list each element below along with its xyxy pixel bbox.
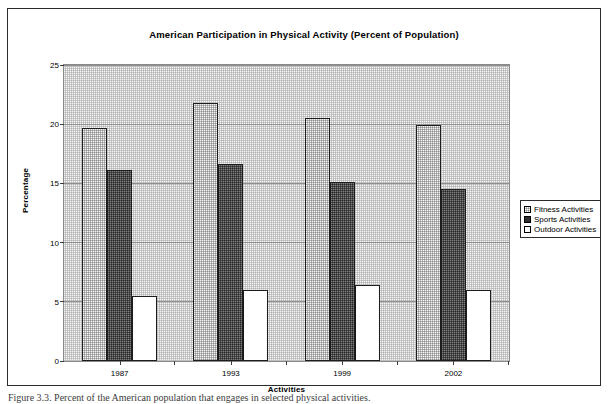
bars-layer: 1987199319992002 (64, 65, 509, 361)
chart-title: American Participation in Physical Activ… (8, 29, 600, 40)
bar-1999-outdoor[interactable] (355, 285, 380, 361)
bar-group-1993: 1993 (175, 65, 286, 361)
bar-2002-outdoor[interactable] (466, 290, 491, 361)
y-tick-label-15: 15 (50, 179, 59, 188)
x-group-divider-1993 (286, 361, 287, 365)
figure-frame: American Participation in Physical Activ… (7, 8, 601, 386)
legend-swatch-fitness-icon (524, 206, 531, 213)
bar-1999-fitness[interactable] (305, 118, 330, 361)
chart-legend: Fitness Activities Sports Activities Out… (520, 200, 601, 238)
x-tick-label-1987: 1987 (111, 369, 129, 378)
bar-1999-sports[interactable] (330, 182, 355, 361)
legend-label-sports: Sports Activities (534, 215, 590, 224)
legend-swatch-sports-icon (524, 216, 531, 223)
bar-1987-outdoor[interactable] (132, 296, 157, 361)
bar-group-1999: 1999 (287, 65, 398, 361)
x-tick-mark-1993 (231, 361, 232, 365)
x-tick-label-1993: 1993 (222, 369, 240, 378)
x-tick-mark-1987 (120, 361, 121, 365)
bar-2002-fitness[interactable] (416, 125, 441, 361)
figure-caption: Figure 3.3. Percent of the American popu… (8, 392, 598, 404)
bar-2002-sports[interactable] (441, 189, 466, 361)
x-group-divider-1987 (174, 361, 175, 365)
legend-swatch-outdoor-icon (524, 226, 531, 233)
bar-1987-fitness[interactable] (82, 128, 107, 361)
legend-item-sports[interactable]: Sports Activities (524, 214, 596, 224)
bar-group-2002: 2002 (398, 65, 509, 361)
x-group-divider-2002 (508, 361, 509, 365)
x-tick-label-2002: 2002 (444, 369, 462, 378)
y-tick-label-25: 25 (50, 61, 59, 70)
x-tick-mark-2002 (453, 361, 454, 365)
legend-item-fitness[interactable]: Fitness Activities (524, 204, 596, 214)
legend-item-outdoor[interactable]: Outdoor Activities (524, 224, 596, 234)
y-tick-label-10: 10 (50, 238, 59, 247)
bar-1993-outdoor[interactable] (243, 290, 268, 361)
x-group-divider-1999 (397, 361, 398, 365)
y-tick-label-0: 0 (55, 357, 59, 366)
bar-1987-sports[interactable] (107, 170, 132, 361)
y-tick-label-20: 20 (50, 120, 59, 129)
legend-label-outdoor: Outdoor Activities (534, 225, 596, 234)
bar-1993-fitness[interactable] (193, 103, 218, 361)
y-tick-label-5: 5 (55, 297, 59, 306)
bar-1993-sports[interactable] (218, 164, 243, 361)
y-axis-title: Percentage (21, 168, 30, 213)
x-tick-mark-1999 (342, 361, 343, 365)
plot-area: 0510152025 1987199319992002 (63, 64, 510, 362)
legend-label-fitness: Fitness Activities (534, 205, 593, 214)
bar-group-1987: 1987 (64, 65, 175, 361)
x-tick-label-1999: 1999 (333, 369, 351, 378)
